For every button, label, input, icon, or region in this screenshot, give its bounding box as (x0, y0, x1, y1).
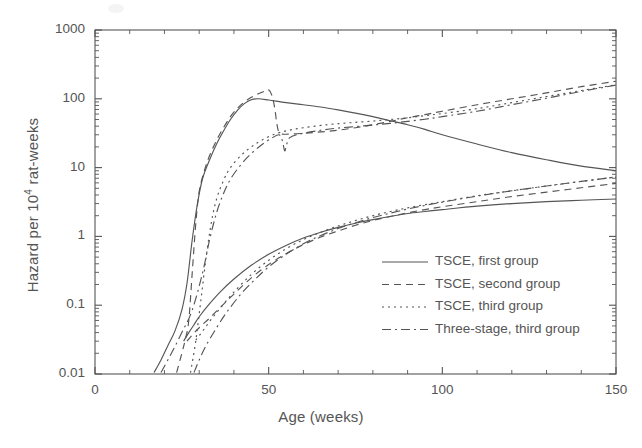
y-tick-label: 1000 (0, 21, 85, 36)
legend-line-samples (382, 262, 428, 330)
y-axis-label-post: rat-weeks (24, 118, 41, 189)
y-tick-label: 0.1 (0, 296, 85, 311)
y-axis-label-exponent: 4 (23, 189, 34, 195)
y-tick-label: 1 (0, 227, 85, 242)
y-tick-label: 100 (0, 90, 85, 105)
hazard-chart (0, 0, 642, 448)
y-axis-label-pre: Hazard per 10 (24, 195, 41, 293)
legend-item-label: TSCE, third group (435, 298, 543, 313)
legend-item-label: Three-stage, third group (435, 321, 580, 336)
x-tick-label: 50 (239, 382, 299, 397)
x-axis-label: Age (weeks) (0, 408, 642, 425)
x-tick-label: 100 (412, 382, 472, 397)
y-tick-label: 10 (0, 159, 85, 174)
y-tick-label: 0.01 (0, 365, 85, 380)
legend-item-label: TSCE, second group (435, 276, 560, 291)
legend-item-label: TSCE, first group (435, 253, 539, 268)
x-tick-label: 0 (65, 382, 125, 397)
x-tick-label: 150 (586, 382, 642, 397)
